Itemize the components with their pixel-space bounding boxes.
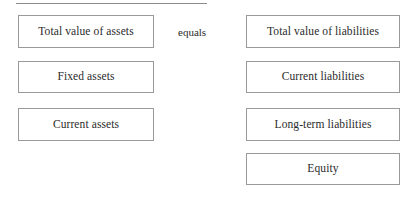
accounting-equation-diagram: Total value of assets Fixed assets Curre…	[0, 0, 412, 198]
box-total-value-of-liabilities: Total value of liabilities	[246, 15, 400, 48]
box-equity: Equity	[246, 153, 400, 185]
box-current-assets: Current assets	[18, 108, 154, 141]
box-long-term-liabilities: Long-term liabilities	[246, 108, 400, 141]
box-current-liabilities: Current liabilities	[246, 61, 400, 93]
box-label: Long-term liabilities	[275, 119, 372, 131]
box-label: Equity	[307, 163, 338, 175]
box-fixed-assets: Fixed assets	[18, 61, 154, 93]
box-label: Fixed assets	[57, 71, 114, 83]
box-label: Current liabilities	[282, 71, 365, 83]
box-label: Total value of liabilities	[267, 26, 379, 38]
box-label: Total value of assets	[38, 26, 134, 38]
box-label: Current assets	[53, 119, 119, 131]
connector-label-equals: equals	[178, 27, 206, 38]
box-total-value-of-assets: Total value of assets	[18, 15, 154, 48]
header-divider	[16, 3, 207, 4]
